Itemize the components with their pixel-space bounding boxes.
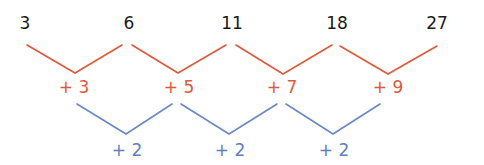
first-difference-3: + 7 bbox=[267, 79, 297, 96]
connector-18-to-27 bbox=[340, 46, 437, 74]
term-4: 18 bbox=[326, 15, 348, 32]
term-5: 27 bbox=[426, 15, 448, 32]
term-2: 6 bbox=[124, 15, 135, 32]
second-difference-connectors bbox=[77, 104, 380, 134]
difference-diagram: 3 6 11 18 27 + 3 + 5 + 7 + 9 + 2 + 2 + 2 bbox=[0, 0, 484, 165]
second-difference-2: + 2 bbox=[215, 142, 245, 159]
connector-plus7-to-plus9 bbox=[286, 104, 380, 134]
second-difference-1: + 2 bbox=[112, 142, 142, 159]
connector-6-to-11 bbox=[132, 45, 226, 73]
connector-plus3-to-plus5 bbox=[77, 104, 172, 134]
term-3: 11 bbox=[221, 15, 243, 32]
first-difference-1: + 3 bbox=[59, 79, 89, 96]
connector-3-to-6 bbox=[27, 45, 122, 73]
first-difference-connectors bbox=[27, 45, 437, 74]
term-1: 3 bbox=[20, 15, 31, 32]
first-difference-4: + 9 bbox=[373, 79, 403, 96]
connector-11-to-18 bbox=[236, 45, 332, 74]
first-difference-2: + 5 bbox=[164, 79, 194, 96]
second-difference-3: + 2 bbox=[319, 142, 349, 159]
connector-plus5-to-plus7 bbox=[181, 104, 277, 134]
